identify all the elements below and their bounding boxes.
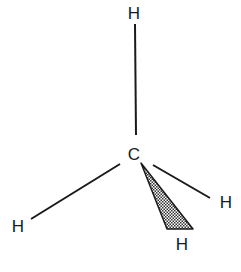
methane-structure-diagram: C H H H H xyxy=(0,0,241,272)
hydrogen-left-label: H xyxy=(12,217,24,236)
bond-left xyxy=(31,164,120,219)
structure-svg: C H H H H xyxy=(0,0,241,272)
bond-top xyxy=(135,24,136,135)
hydrogen-right-label: H xyxy=(220,193,232,212)
carbon-atom-label: C xyxy=(128,145,140,164)
hydrogen-wedge-label: H xyxy=(176,235,188,254)
hydrogen-top-label: H xyxy=(128,4,140,23)
